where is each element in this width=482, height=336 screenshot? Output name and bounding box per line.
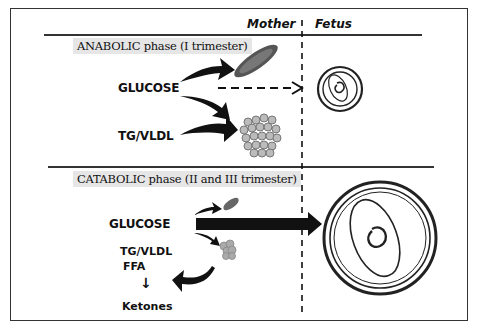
adipose-small-icon xyxy=(220,240,236,260)
anabolic-tg-vldl-label: TG/VLDL xyxy=(118,129,174,143)
catabolic-tg-vldl-label: TG/VLDL xyxy=(120,245,172,258)
ffa-label: FFA xyxy=(123,260,145,273)
curved-arrow-icon xyxy=(180,58,235,82)
curved-arrow-icon xyxy=(180,96,230,120)
catabolic-glucose-label: GLUCOSE xyxy=(109,217,170,231)
curved-arrow-icon xyxy=(172,266,215,292)
down-arrow-icon: ↓ xyxy=(140,275,152,291)
dashed-arrow-head-icon xyxy=(292,82,302,94)
embryo-sac-small-icon xyxy=(318,67,362,111)
anabolic-glucose-label: GLUCOSE xyxy=(118,81,179,95)
curved-arrow-icon xyxy=(194,233,220,246)
curved-arrow-icon xyxy=(180,116,238,142)
catabolic-phase-title: CATABOLIC phase (II and III trimester) xyxy=(73,171,301,187)
anabolic-arrows xyxy=(180,58,238,142)
anabolic-phase-title: ANABOLIC phase (I trimester) xyxy=(73,38,252,54)
embryo-sac-large-icon xyxy=(324,182,436,294)
curved-arrow-icon xyxy=(194,202,222,215)
adipose-tissue-icon xyxy=(240,114,281,157)
ketones-label: Ketones xyxy=(122,300,172,313)
muscle-small-icon xyxy=(221,196,240,213)
catabolic-small-arrows xyxy=(172,202,222,292)
thick-arrow-head-icon xyxy=(308,212,322,236)
